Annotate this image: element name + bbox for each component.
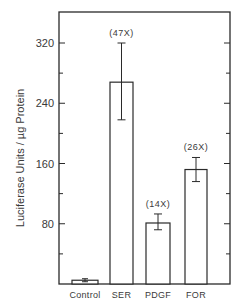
fold-change-annotation: (47X) bbox=[109, 28, 134, 38]
y-tick-label: 80 bbox=[42, 218, 54, 230]
y-axis-label: Luciferase Units / µg Protein bbox=[14, 89, 26, 227]
fold-change-annotation: (14X) bbox=[146, 199, 171, 209]
x-category-label: SER bbox=[112, 290, 132, 300]
bar-pdgf bbox=[146, 223, 170, 284]
bars: (47X)(14X)(26X) bbox=[72, 28, 208, 284]
category-labels: ControlSERPDGFFOR bbox=[69, 290, 206, 300]
y-tick-label: 160 bbox=[36, 158, 54, 170]
fold-change-annotation: (26X) bbox=[184, 142, 209, 152]
y-tick-label: 240 bbox=[36, 97, 54, 109]
x-category-label: Control bbox=[69, 290, 100, 300]
bar-chart: 80160240320 (47X)(14X)(26X) ControlSERPD… bbox=[0, 0, 242, 308]
x-category-label: FOR bbox=[186, 290, 206, 300]
bar-for bbox=[185, 170, 207, 284]
x-category-label: PDGF bbox=[145, 290, 171, 300]
y-tick-label: 320 bbox=[36, 37, 54, 49]
